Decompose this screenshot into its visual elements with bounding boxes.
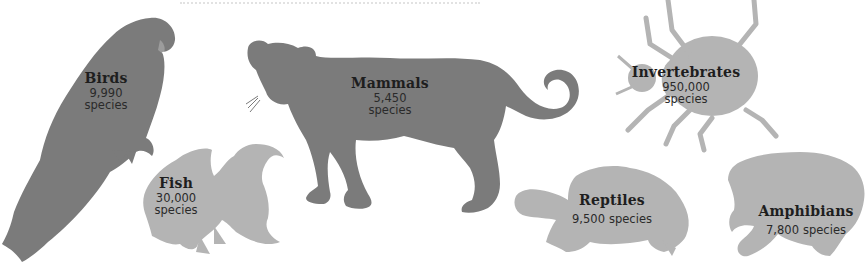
- group-name: Invertebrates: [632, 64, 741, 81]
- group-label-birds: Birds 9,990 species: [84, 70, 127, 111]
- group-name: Birds: [84, 70, 127, 87]
- species-unit: species: [632, 93, 741, 105]
- species-infographic: Birds 9,990 species Fish 30,000 species …: [0, 0, 868, 265]
- species-unit: species: [84, 99, 127, 111]
- group-label-amphibians: Amphibians 7,800 species: [758, 203, 853, 238]
- group-name: Reptiles: [572, 192, 652, 209]
- group-name: Amphibians: [758, 203, 853, 220]
- species-unit: species: [351, 104, 429, 116]
- group-name: Mammals: [351, 75, 429, 92]
- group-label-mammals: Mammals 5,450 species: [351, 75, 429, 116]
- group-label-fish: Fish 30,000 species: [155, 175, 198, 216]
- group-label-reptiles: Reptiles 9,500 species: [572, 192, 652, 227]
- species-unit: species: [803, 223, 846, 237]
- species-unit: species: [609, 212, 652, 226]
- species-count: 7,800: [766, 223, 799, 237]
- group-label-invertebrates: Invertebrates 950,000 species: [632, 64, 741, 105]
- silhouettes: [0, 0, 868, 265]
- species-count: 9,500: [572, 212, 605, 226]
- big-cat-icon: [246, 41, 579, 213]
- species-unit: species: [155, 204, 198, 216]
- group-name: Fish: [155, 175, 198, 192]
